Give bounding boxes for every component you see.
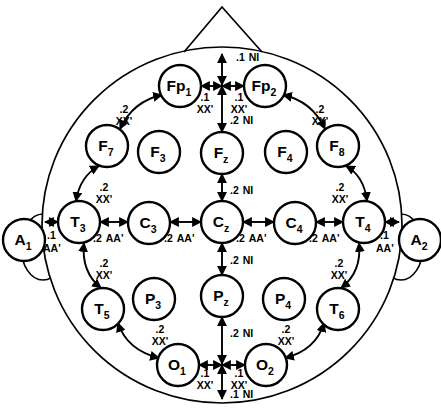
measurement-fraction: .1 <box>230 388 239 400</box>
measurement-fraction: .2 <box>316 103 325 115</box>
electrode-label-base: O <box>168 356 180 373</box>
electrode-label-subscript: 5 <box>104 309 110 321</box>
measurement-reference: XX' <box>152 335 169 347</box>
electrode-pz[interactable]: Pz <box>201 275 243 317</box>
measurement-fraction: .2 <box>100 257 109 269</box>
measurement-reference: XX' <box>96 269 113 281</box>
electrode-label-subscript: 2 <box>268 365 274 377</box>
electrode-a1[interactable]: A1 <box>3 219 45 261</box>
electrode-label-subscript: 3 <box>160 152 166 164</box>
electrode-o2[interactable]: O2 <box>245 344 287 386</box>
measurement-reference: NI <box>243 254 254 266</box>
measurement-fraction: .1 <box>201 367 210 379</box>
electrode-label-subscript: 3 <box>151 223 157 235</box>
electrode-label-base: F <box>150 143 159 160</box>
electrode-f4[interactable]: F4 <box>265 131 307 173</box>
measurement-reference: AA' <box>43 242 61 254</box>
measurement-fraction: .2 <box>230 327 239 339</box>
measurement-fraction: .2 <box>309 232 318 244</box>
measurement-fraction: .2 <box>236 232 245 244</box>
measurement-reference: XX' <box>96 193 113 205</box>
electrode-t6[interactable]: T6 <box>317 288 359 330</box>
measurement-fraction: .2 <box>164 232 173 244</box>
measurement-reference: NI <box>243 327 254 339</box>
electrode-label-subscript: 3 <box>80 222 86 234</box>
measurement-reference: AA' <box>376 242 394 254</box>
electrode-t5[interactable]: T5 <box>82 288 124 330</box>
electrode-label-subscript: 1 <box>180 365 186 377</box>
eeg-electrode-placement-figure: Fp1Fp2F7F3FzF4F8A1T3C3CzC4T4A2T5P3PzP4T6… <box>0 0 441 413</box>
electrode-label-base: Fp <box>167 77 186 94</box>
electrode-label-subscript: 2 <box>271 86 277 98</box>
measurement-fraction: .1 <box>201 91 210 103</box>
measurement-fraction: .2 <box>156 323 165 335</box>
measurement-C3-to-Cz: .2AA' <box>164 232 194 244</box>
electrode-label-subscript: 4 <box>365 222 371 234</box>
measurement-reference: XX' <box>197 379 214 391</box>
electrode-t4[interactable]: T4 <box>343 201 385 243</box>
electrode-label-base: A <box>14 231 25 248</box>
electrode-label-subscript: 1 <box>26 240 32 252</box>
measurement-reference: NI <box>249 51 260 63</box>
measurement-reference: NI <box>243 388 254 400</box>
measurement-label: .2AA' <box>236 232 266 244</box>
electrode-fp2[interactable]: Fp2 <box>244 65 286 107</box>
measurement-reference: XX' <box>278 335 295 347</box>
measurement-Cz-to-C4: .2AA' <box>236 232 266 244</box>
electrode-label-subscript: z <box>224 296 229 308</box>
measurement-reference: AA' <box>177 232 195 244</box>
electrode-f7[interactable]: F7 <box>86 125 128 167</box>
electrode-label-subscript: 4 <box>285 299 291 311</box>
electrode-label-subscript: 8 <box>339 146 345 158</box>
electrode-label-base: Fp <box>252 77 271 94</box>
electrode-label-subscript: z <box>223 153 228 165</box>
measurement-fraction: .2 <box>282 323 291 335</box>
measurement-T3-to-C3: .2AA' <box>93 232 123 244</box>
electrode-f8[interactable]: F8 <box>317 125 359 167</box>
diagram-canvas: Fp1Fp2F7F3FzF4F8A1T3C3CzC4T4A2T5P3PzP4T6… <box>0 0 441 413</box>
electrode-p3[interactable]: P3 <box>133 278 175 320</box>
measurement-reference: AA' <box>249 232 267 244</box>
electrode-label-subscript: 7 <box>108 146 114 158</box>
measurement-fraction: .1 <box>236 51 245 63</box>
electrode-p4[interactable]: P4 <box>263 278 305 320</box>
measurement-fraction: .1 <box>235 91 244 103</box>
measurement-label: .2AA' <box>93 232 123 244</box>
measurement-C4-to-T4: .2AA' <box>309 232 339 244</box>
electrode-a2[interactable]: A2 <box>399 219 441 261</box>
measurement-reference: XX' <box>331 269 348 281</box>
measurement-reference: AA' <box>106 232 124 244</box>
electrode-label-base: O <box>256 356 268 373</box>
measurement-reference: AA' <box>322 232 340 244</box>
measurement-label: .2AA' <box>164 232 194 244</box>
electrode-label-subscript: 6 <box>339 309 345 321</box>
electrode-label-base: F <box>214 144 223 161</box>
measurement-fraction: .2 <box>120 103 129 115</box>
measurement-fraction: .2 <box>230 254 239 266</box>
measurement-fraction: .2 <box>93 232 102 244</box>
electrode-label-base: F <box>98 137 107 154</box>
electrode-label-base: A <box>410 231 421 248</box>
measurement-fraction: .2 <box>336 181 345 193</box>
electrode-label-subscript: 4 <box>287 152 293 164</box>
electrode-fp1[interactable]: Fp1 <box>159 65 201 107</box>
measurement-reference: XX' <box>332 193 349 205</box>
electrode-label-subscript: 2 <box>422 240 428 252</box>
electrode-label-base: C <box>213 213 224 230</box>
measurement-reference: NI <box>243 184 254 196</box>
electrode-label-base: C <box>139 214 150 231</box>
nose-triangle <box>184 7 262 52</box>
electrode-o1[interactable]: O1 <box>157 344 199 386</box>
measurement-fraction: .1 <box>47 229 56 241</box>
electrode-f3[interactable]: F3 <box>138 131 180 173</box>
measurement-reference: XX' <box>312 115 329 127</box>
measurement-reference: XX' <box>116 115 133 127</box>
measurement-reference: NI <box>243 114 254 126</box>
electrode-label-subscript: z <box>224 222 229 234</box>
electrode-label-base: P <box>145 290 155 307</box>
measurement-fraction: .2 <box>335 257 344 269</box>
electrode-fz[interactable]: Fz <box>201 132 243 174</box>
electrode-label-base: P <box>275 290 285 307</box>
measurement-label: .2AA' <box>309 232 339 244</box>
electrode-label-base: F <box>329 137 338 154</box>
